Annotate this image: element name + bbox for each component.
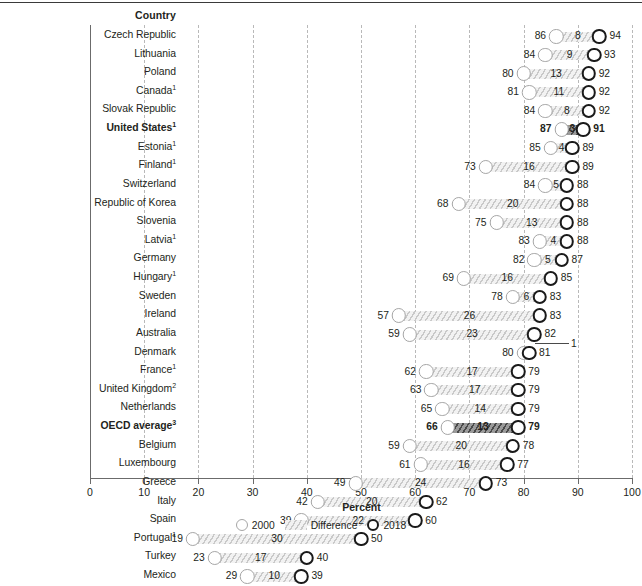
value-2000: 23 bbox=[193, 552, 204, 563]
marker-2018 bbox=[581, 104, 596, 119]
value-2000: 69 bbox=[443, 272, 454, 283]
legend-label: 2000 bbox=[252, 520, 275, 531]
legend-hatch-swatch-icon bbox=[285, 520, 307, 530]
chart-row: Sweden78836 bbox=[0, 288, 642, 307]
value-2018: 89 bbox=[582, 161, 593, 172]
value-2018: 78 bbox=[523, 440, 534, 451]
footnote-marker: 1 bbox=[172, 158, 176, 165]
legend-label: Difference bbox=[311, 520, 358, 531]
chart-row: Switzerland84885 bbox=[0, 176, 642, 195]
footnote-marker: 1 bbox=[172, 83, 176, 90]
value-difference: 6 bbox=[523, 291, 529, 302]
row-label-republic-of-korea: Republic of Korea bbox=[0, 197, 176, 208]
row-label-mexico: Mexico bbox=[0, 569, 176, 580]
marker-2018 bbox=[522, 346, 537, 361]
value-2018: 82 bbox=[544, 328, 555, 339]
value-2000: 83 bbox=[518, 235, 529, 246]
marker-2018 bbox=[576, 122, 591, 137]
value-2018: 89 bbox=[582, 142, 593, 153]
value-2018: 77 bbox=[517, 459, 528, 470]
row-label-sweden: Sweden bbox=[0, 290, 176, 301]
legend-item-y2000[interactable]: 2000 bbox=[236, 519, 275, 531]
marker-2000 bbox=[240, 569, 255, 584]
marker-2000 bbox=[424, 383, 439, 398]
value-2018: 79 bbox=[528, 403, 539, 414]
value-2000: 29 bbox=[226, 570, 237, 581]
marker-2018 bbox=[511, 402, 526, 417]
value-difference: 26 bbox=[464, 310, 475, 321]
marker-2000 bbox=[186, 532, 201, 547]
value-difference: 16 bbox=[458, 459, 469, 470]
marker-2018 bbox=[511, 383, 526, 398]
chart-row: Republic of Korea688820 bbox=[0, 195, 642, 214]
value-difference: 17 bbox=[466, 366, 477, 377]
chart-row: Slovenia758813 bbox=[0, 213, 642, 232]
value-2000: 86 bbox=[535, 30, 546, 41]
chart-legend: 2000Difference2018 bbox=[0, 519, 642, 531]
chart-row: Poland809213 bbox=[0, 64, 642, 83]
value-2000: 62 bbox=[405, 366, 416, 377]
value-2000: 80 bbox=[502, 347, 513, 358]
value-2018: 83 bbox=[550, 310, 561, 321]
marker-2018 bbox=[581, 85, 596, 100]
marker-2000 bbox=[527, 253, 542, 268]
marker-2018 bbox=[543, 271, 558, 286]
value-2018: 92 bbox=[599, 105, 610, 116]
marker-2018 bbox=[592, 29, 607, 44]
value-difference: 16 bbox=[523, 161, 534, 172]
chart-row: Belgium597820 bbox=[0, 437, 642, 456]
row-label-australia: Australia bbox=[0, 327, 176, 338]
row-label-netherlands: Netherlands bbox=[0, 401, 176, 412]
marker-2000 bbox=[554, 122, 569, 137]
footnote-marker: 3 bbox=[172, 419, 176, 426]
value-2000: 59 bbox=[388, 328, 399, 339]
chart-row: Turkey234017 bbox=[0, 548, 642, 567]
marker-2018 bbox=[560, 197, 575, 212]
value-difference: 5 bbox=[545, 254, 551, 265]
row-label-slovak-republic: Slovak Republic bbox=[0, 103, 176, 114]
row-label-luxembourg: Luxembourg bbox=[0, 457, 176, 468]
marker-2000 bbox=[440, 420, 455, 435]
value-2000: 66 bbox=[426, 421, 437, 432]
value-2000: 73 bbox=[464, 161, 475, 172]
value-2000: 82 bbox=[513, 254, 524, 265]
country-column-header: Country bbox=[0, 9, 176, 21]
value-2018: 85 bbox=[561, 272, 572, 283]
footnote-marker: 1 bbox=[172, 270, 176, 277]
legend-item-y2018[interactable]: 2018 bbox=[367, 519, 406, 531]
row-label-united-kingdom: United Kingdom2 bbox=[0, 383, 176, 394]
value-difference: 11 bbox=[553, 86, 564, 97]
legend-circle-2018-icon bbox=[367, 519, 379, 531]
marker-2000 bbox=[413, 457, 428, 472]
row-label-slovenia: Slovenia bbox=[0, 215, 176, 226]
value-2000: 63 bbox=[410, 384, 421, 395]
chart-row: Czech Republic86948 bbox=[0, 27, 642, 46]
value-difference: 10 bbox=[269, 570, 280, 581]
legend-circle-2000-icon bbox=[236, 519, 248, 531]
row-label-france: France1 bbox=[0, 364, 176, 375]
value-2018: 81 bbox=[539, 347, 550, 358]
value-2018: 88 bbox=[577, 217, 588, 228]
value-difference: 13 bbox=[550, 68, 561, 79]
legend-item-difference[interactable]: Difference bbox=[285, 520, 358, 531]
chart-row: United Kingdom2637917 bbox=[0, 381, 642, 400]
marker-2018 bbox=[506, 439, 521, 454]
row-label-greece: Greece bbox=[0, 476, 176, 487]
value-difference: 17 bbox=[469, 384, 480, 395]
marker-2000 bbox=[457, 271, 472, 286]
chart-row: Latvia183884 bbox=[0, 232, 642, 251]
value-2000: 65 bbox=[421, 403, 432, 414]
value-difference: 5 bbox=[553, 179, 559, 190]
row-label-ireland: Ireland bbox=[0, 308, 176, 319]
value-2018: 87 bbox=[572, 254, 583, 265]
value-2018: 88 bbox=[577, 198, 588, 209]
marker-2018 bbox=[511, 420, 526, 435]
value-difference: 1 bbox=[571, 338, 577, 349]
marker-2000 bbox=[549, 29, 564, 44]
value-2018: 94 bbox=[609, 30, 620, 41]
chart-row: Portugal1195030 bbox=[0, 530, 642, 549]
leader-line bbox=[535, 343, 569, 344]
marker-2000 bbox=[543, 141, 558, 156]
value-2018: 79 bbox=[528, 366, 539, 377]
marker-2018 bbox=[560, 178, 575, 193]
